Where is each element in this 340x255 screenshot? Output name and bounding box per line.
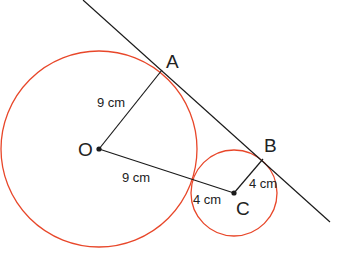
diagram-canvas: O A B C 9 cm 9 cm 4 cm 4 cm — [0, 0, 340, 255]
label-point-A: A — [166, 52, 179, 71]
point-O-dot — [96, 146, 101, 151]
label-radius-C: 4 cm — [193, 193, 221, 206]
label-point-C: C — [236, 199, 250, 218]
label-length-OA: 9 cm — [97, 96, 125, 109]
diagram-svg — [0, 0, 340, 255]
point-C-dot — [231, 190, 236, 195]
tangent-line — [83, 0, 330, 222]
label-length-OC: 9 cm — [122, 171, 150, 184]
label-length-CB: 4 cm — [249, 177, 277, 190]
label-point-B: B — [264, 136, 277, 155]
label-point-O: O — [78, 140, 93, 159]
